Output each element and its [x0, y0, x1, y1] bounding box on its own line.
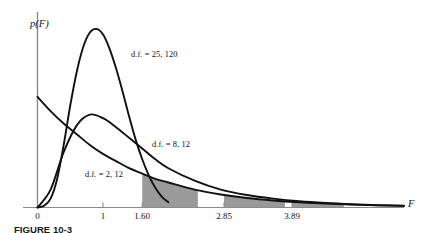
x-tick-label-1: 1: [101, 211, 106, 221]
x-axis-label: F: [408, 198, 414, 209]
curve-label-df-8-12: d.f. = 8, 12: [152, 140, 190, 149]
x-tick-label-3: 2.85: [216, 211, 232, 221]
curve-label-df-25-120: d.f. = 25, 120: [131, 50, 178, 59]
f-distribution-plot: [0, 0, 424, 233]
x-tick-label-2: 1.60: [134, 211, 150, 221]
figure-container: p(F) F d.f. = 25, 120 d.f. = 8, 12 d.f. …: [0, 0, 424, 233]
figure-caption: FIGURE 10-3: [14, 224, 72, 233]
y-axis-label: p(F): [30, 18, 49, 29]
x-tick-label-4: 3.89: [284, 211, 300, 221]
distribution-curves: [38, 29, 405, 208]
curve-label-df-2-12: d.f. = 2, 12: [85, 170, 123, 179]
x-tick-label-0: 0: [35, 211, 40, 221]
